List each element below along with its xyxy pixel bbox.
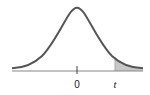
zero-label: 0 (74, 79, 80, 90)
t-distribution-chart: 0 t (0, 0, 150, 95)
right-tail-shaded-area (115, 59, 143, 72)
t-label: t (113, 78, 117, 90)
density-curve (12, 8, 143, 69)
